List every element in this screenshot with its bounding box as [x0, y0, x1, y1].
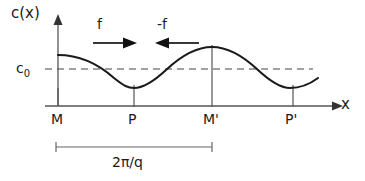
figure-canvas: c(x) c0 f -f x M P M' P' 2π/q — [0, 0, 365, 181]
flux-label-f: f — [97, 17, 102, 31]
tick-label-Pprime: P' — [285, 112, 297, 126]
c0-base: c — [16, 60, 24, 76]
flux-arrow-right-icon — [93, 38, 137, 49]
c0-subscript: 0 — [24, 68, 30, 79]
wave-plot — [0, 0, 365, 181]
tick-label-M: M — [51, 112, 63, 126]
tick-label-P: P — [128, 112, 136, 126]
c0-level-label: c0 — [16, 61, 30, 79]
concentration-curve — [58, 47, 318, 88]
y-axis-label: c(x) — [11, 6, 40, 21]
flux-arrow-left-icon — [155, 38, 199, 49]
flux-label-negative-f: -f — [157, 17, 167, 31]
period-bracket-label: 2π/q — [112, 155, 143, 169]
tick-label-Mprime: M' — [203, 112, 219, 126]
x-axis-label: x — [341, 97, 350, 112]
period-bracket — [56, 142, 212, 152]
x-axis — [45, 102, 343, 111]
